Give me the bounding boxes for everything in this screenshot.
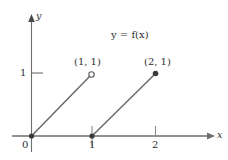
x-axis-label: x <box>217 130 222 140</box>
graph-canvas <box>0 0 228 160</box>
function-segment-1 <box>32 76 91 137</box>
y-axis-arrowhead <box>28 14 35 22</box>
point-marker-origin <box>29 133 34 138</box>
point-marker-1-0 <box>89 133 94 138</box>
point-marker-2-1-filled <box>153 71 159 77</box>
function-equation-label: y = f(x) <box>111 30 149 40</box>
function-segment-2 <box>92 74 155 136</box>
point-marker-1-1-open <box>89 72 94 77</box>
x-tick-label-1: 1 <box>89 140 95 150</box>
x-tick-label-2: 2 <box>152 140 158 150</box>
x-axis-arrowhead <box>207 132 215 139</box>
origin-label: 0 <box>22 140 28 150</box>
point-label-1-1: (1, 1) <box>74 57 101 67</box>
y-axis-label: y <box>36 11 41 21</box>
point-label-2-1: (2, 1) <box>144 57 171 67</box>
figure-container: y x y = f(x) (1, 1) (2, 1) 1 0 1 2 <box>0 0 228 160</box>
y-tick-label-1: 1 <box>20 68 26 78</box>
